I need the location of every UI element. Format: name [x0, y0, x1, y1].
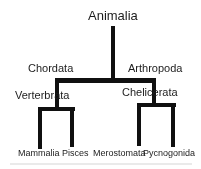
edge-animalia-trunk: [111, 26, 115, 80]
cladogram-drawing: Animalia Chordata Arthropoda Verterbrata…: [0, 0, 201, 169]
edge-pycnogonida-leg: [171, 103, 175, 147]
node-label-verterbrata: Verterbrata: [15, 90, 69, 101]
edge-merostomata-leg: [137, 103, 141, 146]
node-label-animalia: Animalia: [88, 9, 138, 22]
edge-mammalia-leg: [38, 107, 42, 149]
node-label-pisces: Pisces: [62, 149, 89, 158]
node-label-mammalia: Mammalia: [18, 149, 60, 158]
node-label-pycnogonida: Pycnogonida: [143, 149, 195, 158]
cladogram: Animalia Chordata Arthropoda Verterbrata…: [0, 0, 201, 169]
node-label-merostomata: Merostomata: [93, 149, 146, 158]
node-label-arthropoda: Arthropoda: [128, 63, 182, 74]
scan-artifact-smudge: [10, 163, 192, 165]
edge-main-split-bar: [55, 78, 156, 83]
node-label-chelicerata: Chelicerata: [122, 87, 178, 98]
node-label-chordata: Chordata: [28, 63, 73, 74]
edge-pisces-leg: [70, 107, 74, 147]
